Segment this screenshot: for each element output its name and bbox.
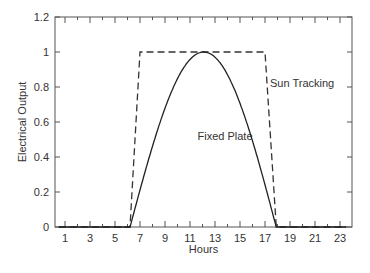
chart: 00.20.40.60.811.2 1357911131517192123 Ho… — [0, 0, 370, 273]
y-axis: 00.20.40.60.811.2 — [34, 11, 352, 233]
annotation-label: Fixed Plate — [198, 130, 253, 142]
y-tick-label: 0.4 — [34, 151, 49, 163]
y-tick-label: 1.2 — [34, 11, 49, 23]
x-tick-label: 7 — [137, 232, 143, 244]
x-tick-label: 9 — [162, 232, 168, 244]
y-axis-label: Electrical Output — [16, 82, 28, 163]
x-tick-label: 17 — [259, 232, 271, 244]
x-tick-label: 23 — [334, 232, 346, 244]
y-tick-label: 0.6 — [34, 116, 49, 128]
x-tick-label: 19 — [284, 232, 296, 244]
y-tick-label: 0.2 — [34, 186, 49, 198]
x-tick-label: 5 — [112, 232, 118, 244]
annotation-label: Sun Tracking — [270, 77, 334, 89]
y-tick-label: 0 — [43, 221, 49, 233]
x-tick-label: 1 — [62, 232, 68, 244]
x-tick-label: 15 — [234, 232, 246, 244]
x-tick-label: 21 — [309, 232, 321, 244]
plot-frame — [55, 17, 352, 227]
x-tick-label: 3 — [87, 232, 93, 244]
y-tick-label: 0.8 — [34, 81, 49, 93]
y-tick-label: 1 — [43, 46, 49, 58]
x-axis-label: Hours — [189, 243, 219, 255]
annotations: Sun TrackingFixed Plate — [198, 77, 335, 142]
